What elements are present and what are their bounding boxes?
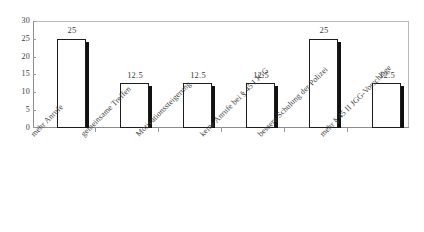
y-tick-label: 20 xyxy=(8,53,30,61)
y-axis-ticks: 30 25 20 15 10 5 0 xyxy=(5,21,30,128)
bar-value-label: 12.5 xyxy=(177,71,219,80)
x-axis-category-labels: mehr Anrufe gemeinsame Treffen Motivatio… xyxy=(0,128,424,232)
bar-value-label: 25 xyxy=(303,26,345,35)
y-tick-label: 5 xyxy=(8,106,30,114)
bar-shadow xyxy=(86,42,89,128)
bar xyxy=(372,83,401,128)
bar-chart: 30 25 20 15 10 5 0 25 12.5 12.5 xyxy=(0,0,424,232)
bar xyxy=(57,39,86,128)
y-tick-label: 30 xyxy=(8,17,30,25)
y-tick-label: 25 xyxy=(8,35,30,43)
bar-shadow xyxy=(401,86,404,128)
bar-value-label: 12.5 xyxy=(114,71,156,80)
y-tick-label: 10 xyxy=(8,88,30,96)
y-tick-label: 15 xyxy=(8,70,30,78)
bar-value-label: 25 xyxy=(51,26,93,35)
